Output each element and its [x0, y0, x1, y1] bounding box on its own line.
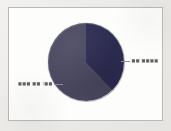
chart-panel: ■■ ■■■■ ■■■ ■■ (■■: [8, 7, 163, 121]
pie-slices[interactable]: [48, 23, 124, 101]
pie-chart[interactable]: [48, 23, 124, 101]
leader-line-right: [121, 61, 130, 62]
plot-area: ■■ ■■■■ ■■■ ■■ (■■: [9, 8, 162, 120]
leader-line-left: [54, 84, 63, 85]
slice-label-left: ■■■ ■■ (■■: [18, 81, 63, 87]
figure-screenshot: ■■ ■■■■ ■■■ ■■ (■■: [0, 0, 171, 131]
slice-label-right-text: ■■ ■■■■: [132, 58, 159, 64]
slice-label-right: ■■ ■■■■: [121, 58, 158, 64]
slice-label-left-text: ■■■ ■■ (■■: [18, 81, 53, 87]
